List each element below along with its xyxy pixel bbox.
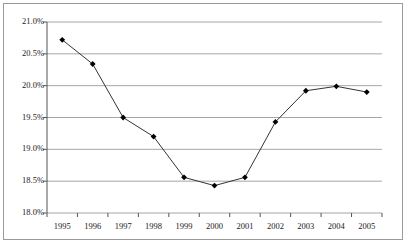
x-tick-label: 2005 [358,221,375,231]
x-tick-label: 1995 [54,221,71,231]
x-axis-tick-labels: 1995199619971998199920002001200220032004… [0,0,408,245]
x-tick-label: 2003 [297,221,314,231]
x-tick-label: 1996 [84,221,101,231]
x-tick-label: 1997 [115,221,132,231]
x-tick-label: 2004 [328,221,345,231]
x-tick-label: 1998 [145,221,162,231]
x-tick-label: 1999 [176,221,193,231]
x-tick-label: 2001 [236,221,253,231]
x-tick-label: 2002 [267,221,284,231]
x-tick-label: 2000 [206,221,223,231]
chart-container: 21.0%20.5%20.0%19.5%19.0%18.5%18.0% 1995… [0,0,408,245]
